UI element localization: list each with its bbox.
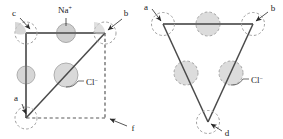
label-na-charge: + xyxy=(69,5,73,11)
label-na-ion: Na+ xyxy=(58,5,73,15)
label-right-d: d xyxy=(225,128,230,138)
label-cl-charge-left: − xyxy=(95,77,99,83)
label-cl-ion-right: Cl− xyxy=(251,75,264,85)
leader-line-right-a xyxy=(152,9,161,21)
label-a: a xyxy=(14,93,18,103)
label-cl-ion-left: Cl− xyxy=(86,77,99,87)
label-right-b: b xyxy=(271,3,276,13)
right-triangle-edge-right xyxy=(208,24,253,122)
left-cell-diagonal-a-b xyxy=(26,33,105,118)
label-b: b xyxy=(124,8,129,18)
label-right-a: a xyxy=(144,2,148,12)
label-f: f xyxy=(132,123,135,133)
label-c: c xyxy=(12,8,16,18)
right-triangle-edge-left xyxy=(163,24,208,122)
label-na-text: Na xyxy=(58,5,69,15)
label-cl-charge-right: − xyxy=(260,75,264,81)
right-panel-triangle: a b d Cl− xyxy=(144,2,276,138)
figure-canvas: c b a f Na+ Cl− xyxy=(0,0,283,139)
crystal-structure-figure: c b a f Na+ Cl− xyxy=(0,0,283,139)
left-panel-square-cell: c b a f Na+ Cl− xyxy=(12,5,135,133)
leader-line-right-d xyxy=(211,124,222,131)
leader-line-f xyxy=(110,119,127,126)
left-cell-ion-corner-c-quadrant xyxy=(15,22,26,34)
left-cell-ion-corner-b-quadrant xyxy=(94,22,105,34)
